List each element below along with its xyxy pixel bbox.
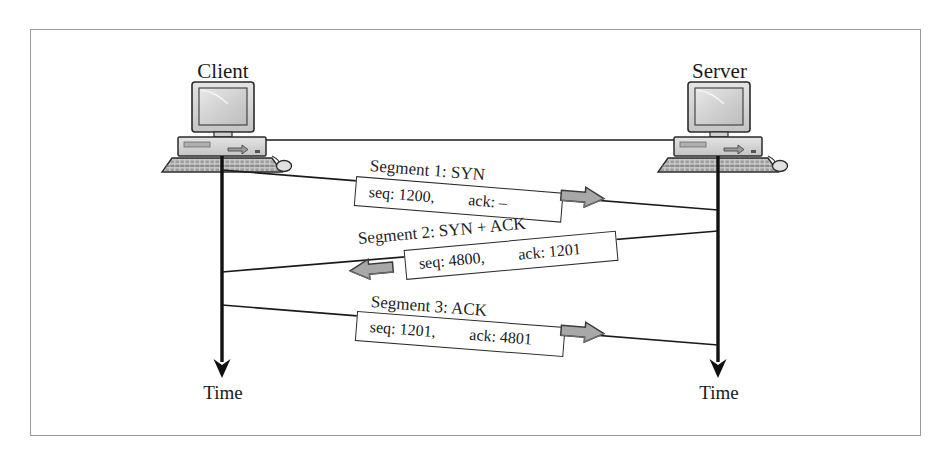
- server-time-label: Time: [676, 382, 762, 404]
- page-bleed-bottom: [330, 443, 930, 456]
- block-arrow-left-icon: [346, 255, 396, 283]
- segment-2-ack: ack: 1201: [484, 240, 582, 267]
- server-label: Server: [672, 59, 767, 84]
- block-arrow-right-icon: [558, 183, 608, 211]
- block-arrow-right-icon: [558, 318, 608, 346]
- segment-3-ack: ack: 4801: [435, 323, 533, 348]
- client-time-label: Time: [180, 382, 266, 404]
- segment-3-seq: seq: 1201,: [356, 317, 436, 341]
- client-label: Client: [178, 59, 268, 84]
- segment-1-ack: ack: –: [434, 188, 508, 212]
- segment-1-seq: seq: 1200,: [355, 182, 435, 206]
- segment-2-seq: seq: 4800,: [405, 249, 485, 274]
- page-bleed-top: [60, 0, 580, 8]
